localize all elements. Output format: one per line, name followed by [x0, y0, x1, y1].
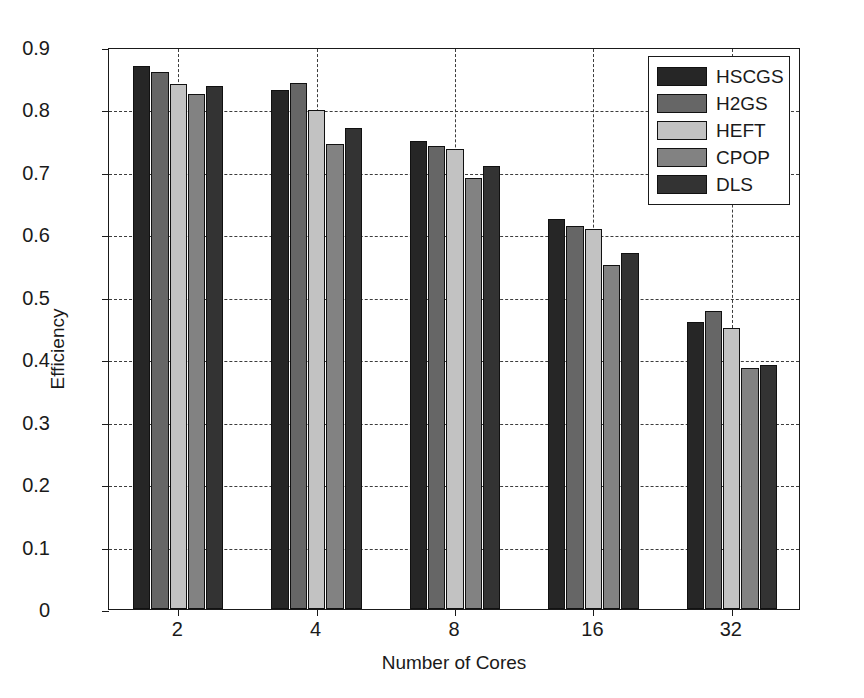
x-axis-tick	[593, 609, 594, 616]
legend-label: HEFT	[716, 121, 766, 140]
x-axis-title: Number of Cores	[108, 652, 800, 674]
legend-item-hscgs: HSCGS	[657, 63, 781, 90]
y-axis-tick-label: 0.5	[0, 288, 50, 308]
bar	[760, 365, 777, 609]
bar	[326, 144, 343, 609]
bar	[465, 178, 482, 609]
bar	[428, 146, 445, 609]
bar	[723, 328, 740, 609]
x-axis-tick-label: 16	[557, 618, 627, 640]
bar	[345, 128, 362, 609]
x-axis-tick-label: 32	[696, 618, 766, 640]
y-axis-tick	[102, 299, 109, 300]
y-axis-tick-label: 0.2	[0, 475, 50, 495]
x-axis-tick	[732, 609, 733, 616]
y-axis-tick-label: 0.6	[0, 225, 50, 245]
y-axis-tick	[102, 424, 109, 425]
bar	[170, 84, 187, 609]
legend-item-dls: DLS	[657, 171, 781, 198]
legend-swatch-icon	[657, 121, 707, 140]
legend-label: CPOP	[716, 148, 770, 167]
y-axis-tick	[102, 611, 109, 612]
x-axis-tick-label: 2	[142, 618, 212, 640]
y-axis-tick-label: 0.3	[0, 413, 50, 433]
bar	[410, 141, 427, 609]
x-axis-tick-label: 8	[419, 618, 489, 640]
y-axis-tick	[102, 486, 109, 487]
legend-item-heft: HEFT	[657, 117, 781, 144]
y-axis-tick	[102, 361, 109, 362]
bar	[483, 166, 500, 609]
bar	[603, 265, 620, 609]
legend-swatch-icon	[657, 94, 707, 113]
y-axis-tick-label: 0.9	[0, 38, 50, 58]
bar	[446, 149, 463, 609]
x-axis-tick	[317, 609, 318, 616]
y-axis-title: Efficiency	[47, 309, 69, 390]
bar	[133, 66, 150, 609]
legend-swatch-icon	[657, 175, 707, 194]
y-axis-tick	[102, 236, 109, 237]
y-axis-tick	[102, 174, 109, 175]
legend-item-h2gs: H2GS	[657, 90, 781, 117]
y-axis-tick-label: 0.4	[0, 350, 50, 370]
chart-figure: Efficiency 00.10.20.30.40.50.60.70.80.9 …	[0, 0, 864, 698]
bar	[548, 219, 565, 609]
bar	[741, 368, 758, 609]
y-axis-tick-label: 0.1	[0, 538, 50, 558]
y-axis-tick-label: 0	[0, 600, 50, 620]
x-axis-tick	[178, 609, 179, 616]
bar	[188, 94, 205, 609]
bar	[206, 86, 223, 609]
x-axis-tick	[455, 609, 456, 616]
bar	[151, 72, 168, 609]
bar	[271, 90, 288, 609]
bar	[687, 322, 704, 609]
x-axis-tick-label: 4	[281, 618, 351, 640]
y-axis-tick	[102, 549, 109, 550]
legend-label: HSCGS	[716, 67, 784, 86]
y-axis-tick-label: 0.7	[0, 163, 50, 183]
legend-swatch-icon	[657, 148, 707, 167]
chart-legend: HSCGSH2GSHEFTCPOPDLS	[648, 56, 790, 205]
bar	[308, 110, 325, 609]
bar	[621, 253, 638, 609]
y-axis-tick-label: 0.8	[0, 100, 50, 120]
legend-label: DLS	[716, 175, 753, 194]
bar	[585, 229, 602, 609]
bar	[566, 226, 583, 609]
y-axis-tick	[102, 111, 109, 112]
legend-label: H2GS	[716, 94, 768, 113]
bar	[290, 83, 307, 609]
y-axis-tick	[102, 49, 109, 50]
legend-swatch-icon	[657, 67, 707, 86]
legend-item-cpop: CPOP	[657, 144, 781, 171]
bar	[705, 311, 722, 609]
